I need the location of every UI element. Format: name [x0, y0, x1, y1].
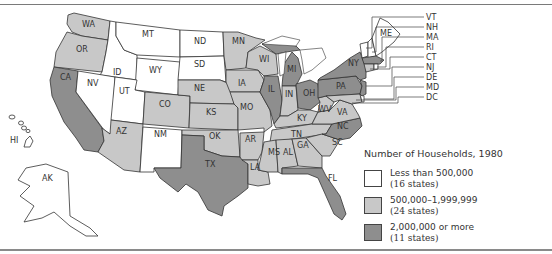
- legend-swatch-mid: [364, 197, 382, 214]
- label-AZ: AZ: [116, 127, 127, 136]
- label-PA: PA: [336, 82, 346, 91]
- label-CA: CA: [60, 73, 72, 82]
- legend-swatch-high: [364, 224, 382, 241]
- label-WA: WA: [82, 20, 95, 29]
- label-NY: NY: [348, 59, 359, 68]
- label-ND: ND: [194, 37, 206, 46]
- legend-item-high: 2,000,000 or more (11 states): [364, 222, 503, 244]
- callout-MD: MD: [426, 83, 439, 92]
- legend-item-mid: 500,000–1,999,999 (24 states): [364, 195, 503, 217]
- label-MI: MI: [287, 65, 296, 74]
- label-OR: OR: [76, 45, 88, 54]
- legend: Number of Households, 1980 Less than 500…: [364, 148, 503, 249]
- label-AK: AK: [42, 174, 53, 183]
- callout-DC: DC: [426, 93, 438, 102]
- callout-NJ: NJ: [426, 63, 434, 72]
- label-MS: MS: [268, 148, 280, 157]
- label-UT: UT: [119, 87, 130, 96]
- label-ME: ME: [380, 29, 392, 38]
- lake-huron-erie: [300, 48, 326, 74]
- legend-count-high: (11 states): [390, 233, 474, 244]
- label-VA: VA: [337, 108, 348, 117]
- legend-range-low: Less than 500,000: [390, 168, 473, 179]
- label-AR: AR: [245, 135, 256, 144]
- label-KY: KY: [297, 114, 307, 123]
- label-IN: IN: [285, 90, 293, 99]
- callout-MA: MA: [426, 33, 439, 42]
- legend-title: Number of Households, 1980: [364, 148, 503, 159]
- state-CT: [364, 64, 374, 72]
- label-WI: WI: [259, 55, 269, 64]
- label-MO: MO: [240, 103, 253, 112]
- label-ID: ID: [113, 68, 122, 77]
- state-MA: [362, 56, 384, 64]
- label-IL: IL: [268, 85, 275, 94]
- label-MN: MN: [232, 37, 245, 46]
- state-WY: [135, 58, 180, 95]
- label-WY: WY: [149, 66, 162, 75]
- label-CO: CO: [159, 100, 171, 109]
- label-GA: GA: [297, 141, 309, 150]
- callout-VT: VT: [426, 13, 436, 22]
- label-HI: HI: [10, 136, 18, 145]
- label-NV: NV: [87, 79, 99, 88]
- label-AL: AL: [283, 148, 293, 157]
- label-FL: FL: [328, 174, 338, 183]
- label-SC: SC: [332, 138, 343, 147]
- callout-DE: DE: [426, 73, 437, 82]
- label-OH: OH: [303, 89, 315, 98]
- callout-CT: CT: [426, 53, 437, 62]
- label-NM: NM: [154, 130, 167, 139]
- lake-superior: [262, 36, 300, 46]
- callout-NH: NH: [426, 23, 438, 32]
- bottom-rule: [0, 249, 552, 251]
- label-NC: NC: [337, 122, 349, 131]
- label-IA: IA: [238, 79, 246, 88]
- label-SD: SD: [194, 60, 205, 69]
- legend-count-low: (16 states): [390, 179, 473, 190]
- legend-count-mid: (24 states): [390, 206, 478, 217]
- label-TX: TX: [204, 160, 216, 169]
- label-NE: NE: [194, 84, 205, 93]
- state-AK: [18, 164, 98, 236]
- label-WV: WV: [318, 105, 332, 114]
- label-MT: MT: [142, 30, 154, 39]
- legend-swatch-low: [364, 170, 382, 187]
- legend-item-low: Less than 500,000 (16 states): [364, 168, 503, 190]
- label-KS: KS: [206, 108, 216, 117]
- state-CO: [143, 92, 190, 128]
- legend-range-high: 2,000,000 or more: [390, 222, 474, 233]
- callout-labels: VT NH MA RI CT NJ DE MD DC: [426, 13, 439, 102]
- legend-range-mid: 500,000–1,999,999: [390, 195, 478, 206]
- label-TN: TN: [290, 130, 302, 139]
- label-LA: LA: [250, 163, 261, 172]
- label-OK: OK: [209, 132, 221, 141]
- callout-RI: RI: [426, 43, 434, 52]
